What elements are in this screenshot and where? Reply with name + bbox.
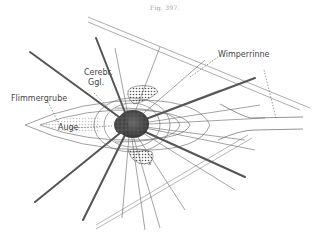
label-x-marker: x (148, 160, 152, 166)
body-outline-upper (88, 17, 310, 110)
organism-illustration (0, 0, 320, 234)
label-ciliated-pit: Flimmergrube (11, 95, 67, 103)
label-eye: Auge (58, 124, 79, 132)
label-ciliated-groove: Wimperrinne (218, 51, 269, 59)
upper-glandular-organ (128, 86, 158, 104)
label-cerebral-ganglion-2: Ggl. (88, 79, 104, 87)
label-cerebral-ganglion-1: Cerebr. (84, 69, 113, 77)
